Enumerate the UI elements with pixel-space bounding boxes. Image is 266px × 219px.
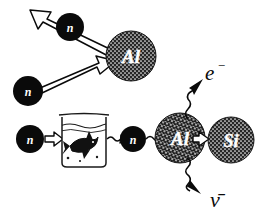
nucleus-aluminium-top-label: Al bbox=[121, 46, 141, 67]
nucleus-aluminium-bottom-label: Al bbox=[170, 128, 190, 149]
neutron-scattered: n bbox=[56, 13, 84, 41]
neutron-incident: n bbox=[13, 76, 43, 106]
neutron-scattered-label: n bbox=[67, 21, 74, 35]
neutron-incident-label: n bbox=[25, 85, 32, 99]
electron-label: e bbox=[205, 61, 214, 85]
nucleus-silicon: Si bbox=[208, 117, 254, 163]
electron-charge-superscript: − bbox=[217, 58, 226, 73]
neutron-moderated: n bbox=[120, 126, 146, 152]
neutron-source: n bbox=[16, 125, 44, 153]
figure-canvas: Al n n n bbox=[0, 0, 266, 219]
neutron-source-label: n bbox=[27, 133, 34, 147]
nucleus-aluminium-top: Al bbox=[106, 31, 156, 81]
neutron-moderated-label: n bbox=[130, 133, 137, 147]
physics-diagram: Al n n n bbox=[0, 0, 266, 219]
nucleus-silicon-label: Si bbox=[223, 131, 238, 151]
water-beaker bbox=[59, 114, 112, 168]
